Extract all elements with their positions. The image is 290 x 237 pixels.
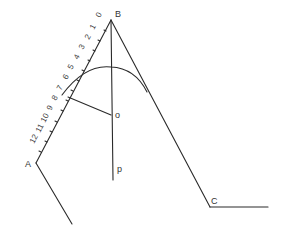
- svg-text:4: 4: [72, 52, 82, 61]
- svg-text:9: 9: [45, 103, 55, 112]
- svg-text:6: 6: [61, 72, 71, 81]
- svg-text:7: 7: [55, 83, 65, 92]
- svg-text:10: 10: [39, 111, 51, 124]
- svg-text:1: 1: [88, 22, 98, 31]
- svg-text:2: 2: [83, 32, 93, 41]
- circular-arc: [62, 67, 147, 95]
- label-c: C: [211, 196, 218, 206]
- label-a: A: [25, 159, 31, 169]
- bisector-line: [111, 20, 113, 180]
- svg-text:0: 0: [94, 10, 104, 19]
- svg-text:3: 3: [77, 42, 87, 51]
- svg-text:5: 5: [66, 62, 76, 71]
- svg-text:11: 11: [34, 122, 46, 134]
- label-b: B: [115, 9, 121, 19]
- label-o: o: [115, 110, 120, 120]
- scale-labels: 0 1 2 3 4 5 6 7 8 9 10 11 12: [28, 10, 104, 145]
- curve-diagram: 0 1 2 3 4 5 6 7 8 9 10 11 12 B A C o p: [0, 0, 290, 237]
- leg-from-a: [36, 163, 72, 224]
- radius-line: [68, 97, 111, 115]
- svg-text:8: 8: [50, 93, 60, 102]
- tangent-line-bc: [111, 20, 210, 207]
- label-p: p: [117, 164, 122, 174]
- svg-text:12: 12: [28, 132, 40, 145]
